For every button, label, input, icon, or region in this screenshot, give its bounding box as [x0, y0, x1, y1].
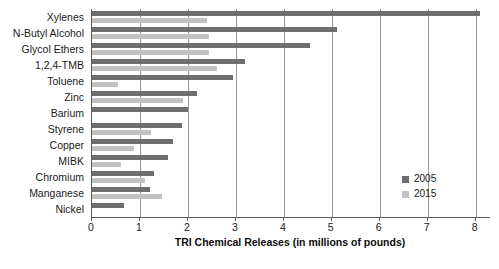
- category-tick: [91, 169, 92, 174]
- bar-group: [92, 9, 490, 25]
- x-tick-label: 5: [328, 222, 334, 233]
- x-tick-label: 2: [184, 222, 190, 233]
- bar-2005: [92, 187, 150, 192]
- x-tick-label: 1: [136, 222, 142, 233]
- bar-2015: [92, 34, 209, 39]
- category-tick: [91, 201, 92, 206]
- category-tick: [91, 105, 92, 110]
- bar-chart: XylenesN-Butyl AlcoholGlycol Ethers1,2,4…: [0, 0, 499, 269]
- category-tick: [91, 73, 92, 78]
- bar-2015: [92, 162, 121, 167]
- bar-2005: [92, 91, 197, 96]
- category-label: Manganese: [0, 185, 88, 201]
- legend-swatch-icon: [402, 176, 409, 183]
- x-tick-label: 0: [88, 222, 94, 233]
- category-label: Copper: [0, 137, 88, 153]
- bar-group: [92, 153, 490, 169]
- category-label: MIBK: [0, 153, 88, 169]
- x-axis-ticks: 012345678: [91, 217, 489, 233]
- chart-legend: 20052015: [402, 174, 436, 199]
- bar-2005: [92, 123, 182, 128]
- bar-2015: [92, 194, 162, 199]
- category-label: N-Butyl Alcohol: [0, 25, 88, 41]
- bar-2015: [92, 18, 207, 23]
- category-tick: [91, 89, 92, 94]
- bar-2005: [92, 59, 245, 64]
- legend-item-2005: 2005: [402, 174, 436, 184]
- bar-2015: [92, 50, 209, 55]
- legend-label: 2015: [414, 189, 436, 199]
- legend-item-2015: 2015: [402, 189, 436, 199]
- bar-group: [92, 25, 490, 41]
- bar-group: [92, 57, 490, 73]
- bar-group: [92, 121, 490, 137]
- bar-2005: [92, 107, 188, 112]
- category-label: Toluene: [0, 73, 88, 89]
- category-label: Nickel: [0, 201, 88, 217]
- bar-2015: [92, 130, 151, 135]
- bar-group: [92, 105, 490, 121]
- bar-group: [92, 89, 490, 105]
- bar-group: [92, 41, 490, 57]
- category-tick: [91, 57, 92, 62]
- legend-label: 2005: [414, 174, 436, 184]
- x-tick-label: 7: [424, 222, 430, 233]
- bar-2005: [92, 11, 480, 16]
- bar-2005: [92, 171, 154, 176]
- category-tick: [91, 153, 92, 158]
- x-tick-label: 4: [280, 222, 286, 233]
- bar-2015: [92, 66, 217, 71]
- x-tick-label: 6: [376, 222, 382, 233]
- bar-2005: [92, 75, 233, 80]
- bar-group: [92, 201, 490, 217]
- category-label: Barium: [0, 105, 88, 121]
- legend-swatch-icon: [402, 191, 409, 198]
- bar-2005: [92, 43, 310, 48]
- x-tick-label: 3: [232, 222, 238, 233]
- x-axis-title: TRI Chemical Releases (in millions of po…: [91, 237, 489, 248]
- category-tick: [91, 137, 92, 142]
- category-tick: [91, 9, 92, 14]
- category-label: Zinc: [0, 89, 88, 105]
- category-label: Styrene: [0, 121, 88, 137]
- category-tick: [91, 25, 92, 30]
- bar-2015: [92, 178, 145, 183]
- category-label: Chromium: [0, 169, 88, 185]
- bar-group: [92, 73, 490, 89]
- bar-group: [92, 137, 490, 153]
- category-axis: XylenesN-Butyl AlcoholGlycol Ethers1,2,4…: [0, 9, 88, 217]
- category-tick: [91, 121, 92, 126]
- bar-2005: [92, 139, 173, 144]
- category-tick: [91, 185, 92, 190]
- category-tick: [91, 41, 92, 46]
- bar-2005: [92, 27, 337, 32]
- bar-2005: [92, 155, 168, 160]
- x-tick-label: 8: [472, 222, 478, 233]
- plot-area: 20052015: [91, 9, 490, 217]
- bar-2005: [92, 203, 124, 208]
- category-label: Xylenes: [0, 9, 88, 25]
- category-label: Glycol Ethers: [0, 41, 88, 57]
- bar-2015: [92, 146, 134, 151]
- category-label: 1,2,4-TMB: [0, 57, 88, 73]
- bar-2015: [92, 98, 183, 103]
- bar-2015: [92, 82, 118, 87]
